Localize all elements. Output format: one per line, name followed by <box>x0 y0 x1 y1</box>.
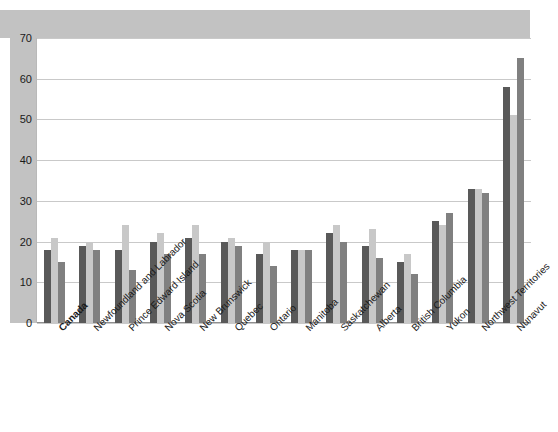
bar-group <box>44 238 65 324</box>
bar[interactable] <box>263 242 270 323</box>
bar[interactable] <box>51 238 58 324</box>
bar[interactable] <box>157 233 164 323</box>
y-tick-label-60: 60 <box>20 73 32 84</box>
bar[interactable] <box>446 213 453 323</box>
y-tick-label-0: 0 <box>26 318 32 329</box>
bar[interactable] <box>58 262 65 323</box>
y-tick-label-40: 40 <box>20 155 32 166</box>
y-tick-label-70: 70 <box>20 33 32 44</box>
bar[interactable] <box>44 250 51 323</box>
bar[interactable] <box>86 242 93 323</box>
bar[interactable] <box>475 189 482 323</box>
y-tick-label-10: 10 <box>20 277 32 288</box>
bar[interactable] <box>468 189 475 323</box>
bar[interactable] <box>503 87 510 323</box>
bar-chart: TotalMalesFemales 010203040506070 Canada… <box>0 0 558 432</box>
bar[interactable] <box>340 242 347 323</box>
bar[interactable] <box>404 254 411 323</box>
bar[interactable] <box>93 250 100 323</box>
bar[interactable] <box>270 266 277 323</box>
bar[interactable] <box>298 250 305 323</box>
y-tick-label-20: 20 <box>20 236 32 247</box>
y-tick-label-50: 50 <box>20 114 32 125</box>
bar[interactable] <box>228 238 235 324</box>
y-tick-label-30: 30 <box>20 195 32 206</box>
bar[interactable] <box>305 250 312 323</box>
x-axis-labels: CanadaNewfoundland and LabradorPrince Ed… <box>36 326 536 430</box>
bar-group <box>468 189 489 323</box>
bar[interactable] <box>482 193 489 323</box>
